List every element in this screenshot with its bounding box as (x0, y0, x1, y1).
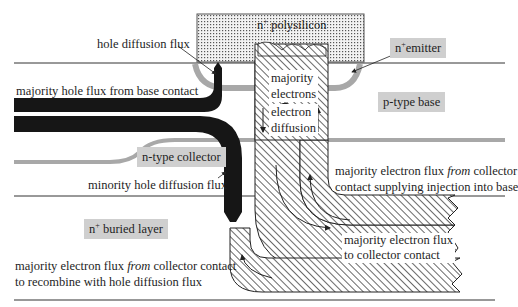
majority-hole-flux (14, 116, 242, 222)
polysilicon-label: n+ polysilicon (257, 18, 326, 32)
emitter-label: n+emitter (390, 38, 446, 58)
minority-hole-diffusion-label: minority hole diffusion flux (88, 178, 227, 192)
diagram-canvas: n+ polysilicon n+emitter p-type base n-t… (0, 0, 518, 307)
hole-diffusion-flux-label: hole diffusion flux (97, 37, 190, 51)
collector-label: n-type collector (137, 147, 226, 167)
supply-flux-label: majority electron flux from collector co… (335, 163, 518, 195)
electron-diffusion-label: electrondiffusion (269, 104, 318, 136)
recombine-flux-label: majority electron flux from collector co… (15, 258, 236, 290)
emitter-injection-peaks (258, 42, 326, 56)
buried-layer-label: n+ buried layer (84, 219, 168, 239)
to-collector-flux-label: majority electron fluxto collector conta… (342, 233, 455, 263)
majority-electrons-label: majorityelectrons (269, 70, 318, 102)
base-label: p-type base (378, 92, 445, 112)
majority-hole-flux-label: majority hole flux from base contact (16, 84, 198, 98)
